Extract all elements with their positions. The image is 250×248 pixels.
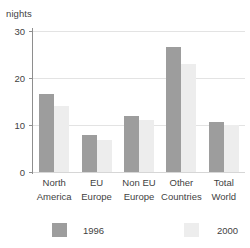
plot-area [33, 31, 245, 172]
bar-group [160, 31, 202, 172]
x-axis-label: TotalWorld [197, 176, 250, 203]
bar[interactable] [124, 116, 139, 172]
bar-group [118, 31, 160, 172]
legend-label-2000: 2000 [217, 225, 238, 236]
bar[interactable] [181, 64, 196, 172]
bar[interactable] [166, 47, 181, 172]
y-tick-label-10: 10 [0, 120, 25, 131]
y-axis-unit-label: nights [6, 8, 32, 19]
bar[interactable] [54, 106, 69, 172]
bar[interactable] [209, 122, 224, 172]
legend-item-1996[interactable]: 1996 [52, 222, 104, 238]
bar[interactable] [97, 140, 112, 172]
chart-legend: 1996 2000 [0, 222, 250, 242]
chart-title [0, 0, 250, 3]
bar[interactable] [224, 125, 239, 172]
bar[interactable] [39, 94, 54, 172]
y-tick-label-20: 20 [0, 73, 25, 84]
bar[interactable] [139, 120, 154, 172]
bar[interactable] [82, 135, 97, 172]
y-tick-mark-0 [29, 172, 33, 173]
legend-swatch-1996 [52, 223, 67, 237]
y-tick-label-30: 30 [0, 26, 25, 37]
y-tick-mark-10 [29, 125, 33, 126]
bar-group [203, 31, 245, 172]
y-tick-mark-30 [29, 31, 33, 32]
bar-group [75, 31, 117, 172]
legend-swatch-2000 [184, 223, 199, 237]
bar-group [33, 31, 75, 172]
x-axis-category-labels: NorthAmericaEUEuropeNon EUEuropeOtherCou… [33, 176, 245, 214]
y-tick-mark-20 [29, 78, 33, 79]
gridline-0 [33, 172, 245, 173]
y-tick-label-0: 0 [0, 167, 25, 178]
bar-chart-figure: nights 0102030 NorthAmericaEUEuropeNon E… [0, 0, 250, 248]
legend-label-1996: 1996 [83, 225, 104, 236]
legend-item-2000[interactable]: 2000 [184, 222, 238, 238]
